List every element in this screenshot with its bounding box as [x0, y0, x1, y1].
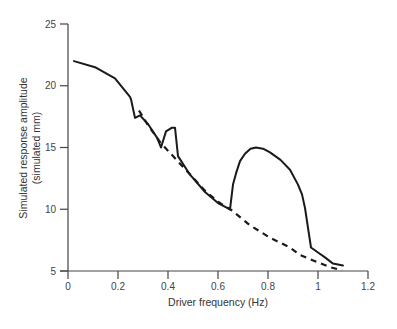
y-axis-label-line2: (simulated mm) — [30, 112, 42, 184]
y-tick-label: 10 — [45, 204, 57, 215]
chart: 510152025 00.20.40.60.811.2 Driver frequ… — [0, 0, 397, 329]
x-tick-label: 0 — [65, 281, 71, 292]
y-tick-label: 15 — [45, 142, 57, 153]
x-tick-label: 0.2 — [111, 281, 125, 292]
solid-series-line — [74, 61, 343, 265]
x-tick-label: 0.6 — [211, 281, 225, 292]
x-tick-label: 1.2 — [361, 281, 375, 292]
y-tick-label: 25 — [45, 19, 57, 30]
x-tick-label: 1 — [315, 281, 321, 292]
y-tick-label: 20 — [45, 80, 57, 91]
x-axis: 00.20.40.60.811.2 — [60, 271, 375, 292]
series-layer — [74, 61, 343, 270]
x-tick-label: 0.8 — [261, 281, 275, 292]
y-axis: 510152025 — [45, 19, 68, 277]
y-tick-label: 5 — [50, 266, 56, 277]
x-axis-label: Driver frequency (Hz) — [168, 296, 268, 308]
x-tick-label: 0.4 — [161, 281, 175, 292]
y-axis-label-line1: Simulated response amplitude — [17, 77, 29, 218]
